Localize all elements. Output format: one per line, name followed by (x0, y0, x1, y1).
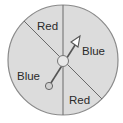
hub-icon (58, 56, 69, 67)
section-label-red-bottom: Red (69, 94, 90, 106)
section-label-blue-right: Blue (82, 45, 105, 57)
spinner: Red Blue Blue Red (0, 0, 123, 123)
section-label-blue-left: Blue (17, 70, 40, 82)
section-label-red-top: Red (37, 20, 58, 32)
